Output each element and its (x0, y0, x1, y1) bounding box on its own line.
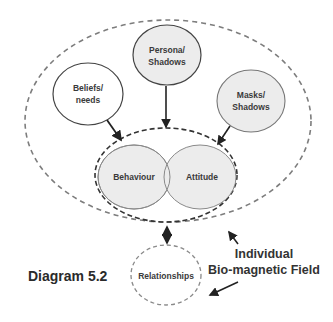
field-label-line1: Individual (235, 247, 293, 261)
persona-label-line1: Persona/ (149, 45, 186, 55)
beliefs-node: Beliefs/ needs (53, 63, 123, 125)
diagram-canvas: Behaviour Attitude Persona/ Shadows Beli… (0, 0, 333, 322)
diagram-caption: Diagram 5.2 (28, 268, 108, 284)
behaviour-label: Behaviour (113, 172, 155, 182)
beliefs-label-line1: Beliefs/ (73, 83, 104, 93)
relationships-label: Relationships (138, 271, 194, 281)
masks-arrow (218, 126, 230, 144)
masks-label-line2: Shadows (232, 102, 270, 112)
masks-node: Masks/ Shadows (217, 70, 285, 132)
masks-label-line1: Masks/ (237, 90, 266, 100)
field-pointer-arrow (229, 232, 238, 244)
attitude-label: Attitude (186, 172, 218, 182)
field-label-line2: Bio-magnetic Field (208, 263, 320, 277)
persona-node: Persona/ Shadows (133, 25, 201, 85)
persona-label-line2: Shadows (148, 57, 186, 67)
beliefs-arrow (107, 120, 121, 140)
relationships-node: Relationships (131, 245, 201, 305)
field-relationships-arrow (210, 282, 238, 295)
beliefs-label-line2: needs (76, 95, 101, 105)
